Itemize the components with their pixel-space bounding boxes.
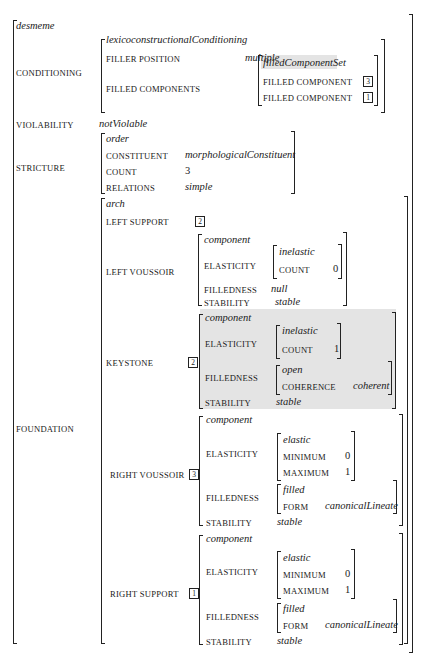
keystone-bracket-right [392, 312, 396, 409]
right-support-filledness-type: filled [283, 603, 305, 615]
right-support-type: component [206, 533, 252, 545]
keystone-elasticity-label: ELASTICITY [205, 338, 257, 350]
right-support-stability-value: stable [277, 635, 302, 647]
conditioning-label: CONDITIONING [16, 67, 82, 79]
conditioning-bracket-right [381, 39, 385, 113]
foundation-label: FOUNDATION [16, 423, 74, 435]
keystone-label: KEYSTONE [106, 357, 153, 369]
left-voussoir-elasticity-type: inelastic [279, 246, 315, 258]
keystone-tag-2: 2 [188, 357, 198, 368]
right-voussoir-elasticity-bracket-right [351, 431, 355, 481]
right-voussoir-min-label: MINIMUM [283, 451, 326, 463]
right-support-label: RIGHT SUPPORT [110, 588, 179, 600]
right-support-form-value: canonicalLineate [325, 619, 398, 631]
right-voussoir-bracket-left [199, 416, 203, 526]
stricture-bracket-left [101, 133, 105, 194]
left-voussoir-elasticity-label: ELASTICITY [204, 260, 256, 272]
right-support-min-label: MINIMUM [283, 569, 326, 581]
left-voussoir-bracket-left [198, 234, 202, 306]
violability-label: VIOLABILITY [16, 119, 74, 131]
keystone-stability-label: STABILITY [205, 397, 251, 409]
coindex-tag-1: 1 [363, 92, 373, 103]
violability-value: notViolable [99, 118, 147, 130]
right-support-elasticity-bracket-left [277, 551, 281, 599]
right-voussoir-max-label: MAXIMUM [283, 467, 329, 479]
right-support-elasticity-bracket-right [351, 549, 355, 599]
right-support-tag-1: 1 [189, 588, 199, 599]
arch-bracket-left [101, 198, 105, 644]
keystone-elasticity-type: inelastic [282, 325, 318, 337]
right-voussoir-label: RIGHT VOUSSOIR [110, 469, 185, 481]
right-voussoir-stability-label: STABILITY [206, 517, 252, 529]
right-support-bracket-right [399, 533, 403, 645]
left-voussoir-count-label: COUNT [279, 264, 310, 276]
keystone-coherence-value: coherent [353, 380, 389, 392]
left-voussoir-filledness-label: FILLEDNESS [204, 284, 257, 296]
filler-position-label: FILLER POSITION [106, 53, 180, 65]
count-label: COUNT [106, 166, 137, 178]
keystone-elasticity-bracket-left [276, 325, 280, 359]
left-voussoir-bracket-right [343, 232, 347, 306]
right-voussoir-max-value: 1 [345, 466, 350, 478]
right-voussoir-filledness-type: filled [283, 484, 305, 496]
right-voussoir-bracket-right [399, 414, 403, 526]
left-voussoir-stability-label: STABILITY [204, 297, 250, 309]
left-voussoir-elasticity-bracket-left [273, 245, 277, 279]
filled-components-bracket-left [258, 55, 262, 106]
filled-components-label: FILLED COMPONENTS [106, 83, 200, 95]
arch-type: arch [106, 198, 125, 210]
filled-component-1-label: FILLED COMPONENT [263, 76, 352, 88]
filled-components-bracket-right [374, 55, 378, 106]
right-support-max-label: MAXIMUM [283, 585, 329, 597]
left-voussoir-label: LEFT VOUSSOIR [106, 266, 175, 278]
left-voussoir-count-value: 0 [333, 263, 338, 275]
right-voussoir-type: component [206, 414, 252, 426]
count-value: 3 [185, 165, 190, 177]
keystone-coherence-label: COHERENCE [282, 381, 336, 393]
keystone-filledness-label: FILLEDNESS [205, 372, 258, 384]
right-support-filledness-label: FILLEDNESS [206, 611, 259, 623]
highlight-keystone [200, 309, 396, 409]
right-voussoir-elasticity-label: ELASTICITY [206, 448, 258, 460]
right-voussoir-elasticity-bracket-left [277, 433, 281, 481]
stricture-bracket-right [291, 131, 295, 194]
right-support-stability-label: STABILITY [206, 636, 252, 648]
conditioning-bracket-left [101, 39, 105, 113]
left-voussoir-type: component [204, 234, 250, 246]
keystone-filledness-bracket-left [276, 365, 280, 395]
right-support-elasticity-label: ELASTICITY [206, 566, 258, 578]
right-voussoir-form-label: FORM [283, 501, 308, 513]
keystone-type: component [205, 312, 251, 324]
left-voussoir-filledness-value: null [271, 283, 287, 295]
keystone-filledness-type: open [282, 364, 302, 376]
left-voussoir-elasticity-bracket-right [338, 244, 342, 279]
constituent-value: morphologicalConstituent [185, 149, 295, 161]
right-voussoir-tag-3: 3 [189, 469, 199, 480]
conditioning-type: lexicoconstructionalConditioning [106, 34, 247, 46]
right-support-max-value: 1 [345, 584, 350, 596]
keystone-stability-value: stable [276, 396, 301, 408]
stricture-label: STRICTURE [16, 162, 65, 174]
right-voussoir-min-value: 0 [345, 450, 350, 462]
right-support-min-value: 0 [345, 568, 350, 580]
desmeme-bracket-left [13, 20, 17, 644]
right-support-elasticity-type: elastic [283, 552, 310, 564]
right-voussoir-elasticity-type: elastic [283, 434, 310, 446]
right-voussoir-filledness-bracket-left [277, 484, 281, 514]
left-support-tag-2: 2 [195, 216, 205, 227]
relations-value: simple [185, 181, 212, 193]
filled-component-2-label: FILLED COMPONENT [263, 92, 352, 104]
desmeme-type: desmeme [16, 20, 54, 32]
stricture-type: order [106, 133, 129, 145]
right-support-form-label: FORM [283, 620, 308, 632]
left-support-label: LEFT SUPPORT [106, 216, 169, 228]
right-voussoir-stability-value: stable [277, 516, 302, 528]
constituent-label: CONSTITUENT [106, 150, 168, 162]
arch-bracket-right [404, 196, 408, 644]
keystone-count-label: COUNT [282, 344, 313, 356]
keystone-bracket-left [199, 314, 203, 409]
left-voussoir-stability-value: stable [275, 296, 300, 308]
desmeme-bracket-right [409, 14, 413, 653]
right-support-bracket-left [199, 535, 203, 645]
right-voussoir-filledness-label: FILLEDNESS [206, 492, 259, 504]
